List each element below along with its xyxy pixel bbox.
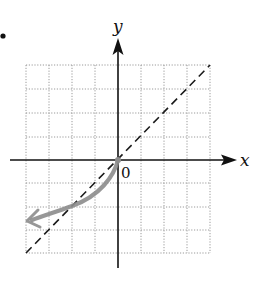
y-axis (113, 38, 124, 268)
bullet-dot (0, 33, 5, 38)
origin-label: 0 (121, 164, 131, 182)
y-axis-label: y (112, 16, 123, 36)
gray-curve (27, 157, 121, 227)
origin-point (115, 157, 121, 163)
graph-figure: y x 0 (0, 0, 264, 282)
x-axis-label: x (240, 150, 250, 170)
